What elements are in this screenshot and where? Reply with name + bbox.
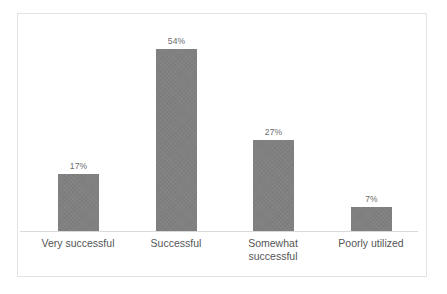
bar-very-successful[interactable] (58, 174, 99, 231)
category-axis-line (20, 231, 418, 232)
x-axis-label-successful: Successful (121, 237, 231, 250)
x-axis-label-poorly-utilized: Poorly utilized (316, 237, 426, 250)
x-axis-label-somewhat-successful: Somewhat successful (238, 237, 308, 262)
bar-poorly-utilized[interactable] (351, 207, 392, 231)
bar-value-poorly-utilized: 7% (337, 194, 407, 204)
bar-value-very-successful: 17% (44, 161, 114, 171)
bar-chart-figure: 17% 54% 27% 7% Very successful Successfu… (0, 0, 447, 294)
chart-frame: 17% 54% 27% 7% Very successful Successfu… (17, 13, 427, 277)
bar-somewhat-successful[interactable] (253, 140, 294, 231)
x-axis-label-very-successful: Very successful (23, 237, 133, 250)
bar-successful[interactable] (156, 49, 197, 231)
bar-value-successful: 54% (142, 36, 212, 46)
plot-area: 17% 54% 27% 7% Very successful Successfu… (18, 14, 428, 278)
bar-value-somewhat-successful: 27% (239, 127, 309, 137)
